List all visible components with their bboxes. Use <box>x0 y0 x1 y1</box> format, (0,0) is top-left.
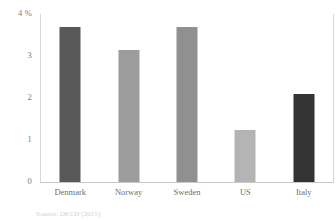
bar-italy[interactable] <box>293 94 314 182</box>
source-note: Source: OECD (2015) <box>36 210 101 219</box>
x-tick-label-us: US <box>216 186 274 198</box>
y-tick-label: 2 <box>28 93 32 102</box>
x-tick-label-denmark: Denmark <box>41 186 99 198</box>
bar-slot <box>275 14 333 182</box>
y-tick-label: 1 <box>28 135 32 144</box>
x-tick-label-sweden: Sweden <box>158 186 216 198</box>
bar-sweden[interactable] <box>176 27 197 182</box>
bar-norway[interactable] <box>118 50 139 182</box>
x-tick-label-italy: Italy <box>275 186 333 198</box>
bar-slot <box>216 14 274 182</box>
y-axis: 01234 % <box>0 0 34 221</box>
x-tick-label-norway: Norway <box>99 186 157 198</box>
plot-right-border <box>333 14 334 183</box>
y-tick-label: 4 % <box>18 9 32 18</box>
plot-area <box>41 14 333 182</box>
bar-slot <box>99 14 157 182</box>
x-axis-line <box>40 182 334 183</box>
bar-chart: 01234 % DenmarkNorwaySwedenUSItaly Sourc… <box>0 0 336 221</box>
y-tick-label: 0 <box>28 177 32 186</box>
y-tick-label: 3 <box>28 51 32 60</box>
bar-denmark[interactable] <box>60 27 81 182</box>
x-axis: DenmarkNorwaySwedenUSItaly <box>41 186 333 202</box>
bar-us[interactable] <box>235 130 256 183</box>
bar-slot <box>158 14 216 182</box>
bar-slot <box>41 14 99 182</box>
